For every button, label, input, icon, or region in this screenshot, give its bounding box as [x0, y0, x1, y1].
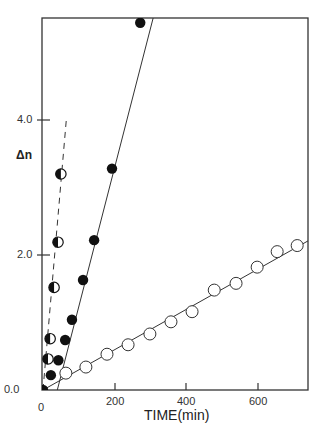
x-axis-label: TIME(min)	[144, 407, 209, 423]
open-data-point	[144, 328, 156, 340]
filled-data-point	[67, 315, 77, 325]
open-data-point	[251, 261, 263, 273]
y-tick-label-4: 4.0	[17, 113, 32, 125]
y-axis-label: Δn	[16, 148, 32, 162]
chart	[0, 0, 322, 437]
plot-frame	[42, 18, 308, 390]
x-tick-label-200: 200	[106, 395, 124, 407]
x-tick-label-400: 400	[177, 395, 195, 407]
y-tick-label-0: 0.0	[4, 383, 19, 395]
open-data-point	[208, 284, 220, 296]
fit-line	[57, 15, 154, 390]
filled-data-point	[78, 275, 88, 285]
x-tick-label-600: 600	[249, 395, 267, 407]
y-tick-label-2: 2.0	[17, 248, 32, 260]
x-tick-label-0: 0	[38, 401, 44, 413]
filled-data-point	[135, 18, 145, 28]
filled-data-point	[53, 355, 63, 365]
filled-data-point	[38, 385, 48, 395]
filled-data-point	[107, 163, 117, 173]
open-data-point	[271, 246, 283, 258]
open-data-point	[230, 277, 242, 289]
fit-line	[43, 117, 67, 390]
filled-data-point	[89, 235, 99, 245]
open-data-point	[80, 361, 92, 373]
open-data-point	[60, 367, 72, 379]
open-data-point	[186, 306, 198, 318]
open-data-point	[101, 348, 113, 360]
open-data-point	[291, 240, 303, 252]
open-data-point	[165, 316, 177, 328]
filled-data-point	[60, 335, 70, 345]
open-data-point	[122, 339, 134, 351]
filled-data-point	[46, 370, 56, 380]
